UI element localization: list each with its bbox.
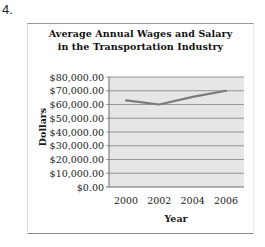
y-tick-label: $80,000.00 [50, 72, 104, 83]
x-tick-label: 2002 [147, 195, 171, 206]
y-tick-label: $70,000.00 [50, 85, 104, 96]
x-axis-title: Year [163, 213, 188, 224]
y-axis-tick-labels: $0.00$10,000.00$20,000.00$30,000.00$40,0… [50, 72, 104, 193]
line-chart: $0.00$10,000.00$20,000.00$30,000.00$40,0… [0, 0, 265, 247]
y-tick-label: $20,000.00 [50, 154, 104, 165]
y-tick-label: $60,000.00 [50, 99, 104, 110]
y-tick-label: $10,000.00 [50, 168, 104, 179]
x-tick-label: 2000 [114, 195, 138, 206]
x-tick-label: 2004 [181, 195, 205, 206]
y-tick-label: $30,000.00 [50, 140, 104, 151]
y-tick-label: $0.00 [77, 182, 104, 193]
x-tick-label: 2006 [214, 195, 238, 206]
y-tick-label: $40,000.00 [50, 127, 104, 138]
x-axis-tick-labels: 2000200220042006 [114, 195, 238, 206]
y-axis-title: Dollars [37, 108, 48, 146]
y-tick-label: $50,000.00 [50, 113, 104, 124]
